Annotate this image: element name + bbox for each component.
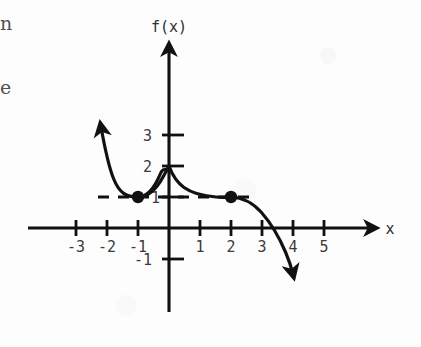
x-tick-label: 4: [288, 238, 297, 256]
y-tick-label: -1: [134, 251, 152, 269]
x-tick-label: 2: [226, 238, 235, 256]
marked-point-inflection: [225, 191, 237, 203]
y-tick-label: 3: [143, 127, 152, 145]
y-axis-label: f(x): [151, 18, 187, 36]
x-tick-label: 1: [195, 238, 204, 256]
marked-point-local-minimum: [132, 191, 144, 203]
function-graph-figure: n e: [0, 0, 421, 347]
x-axis-label: x: [385, 220, 394, 238]
axis-lines: [28, 46, 374, 312]
x-tick-label: -3: [67, 238, 85, 256]
x-tick-label: 5: [319, 238, 328, 256]
y-tick-label: 2: [143, 158, 152, 176]
x-tick-label: 3: [257, 238, 266, 256]
x-tick-labels: -3 -2 -1 1 2 3 4 5: [67, 238, 329, 256]
graph-canvas: -3 -2 -1 1 2 3 4 5 3 2 1 -1 f(x) x: [0, 0, 421, 347]
x-tick-label: -2: [98, 238, 116, 256]
